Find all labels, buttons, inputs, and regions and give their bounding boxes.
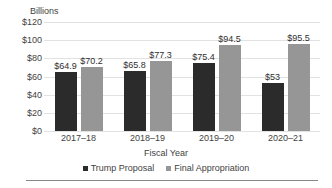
- bar[interactable]: [219, 45, 241, 131]
- y-axis-tick-label: $60: [2, 72, 42, 82]
- y-axis-tick-labels: $120$100$80$60$40$20$0: [0, 22, 42, 131]
- x-axis-tick-labels: 2017–182018–192019–202020–21: [44, 133, 320, 143]
- x-axis-tick-label: 2019–20: [182, 133, 251, 143]
- bar-group: $53$95.5: [251, 22, 320, 131]
- bar[interactable]: [193, 63, 215, 131]
- bar[interactable]: [81, 67, 103, 131]
- y-axis-tick-label: $80: [2, 53, 42, 63]
- bar-slot: $70.2: [81, 22, 103, 131]
- bar-group: $64.9$70.2: [44, 22, 113, 131]
- bar-value-label: $95.5: [287, 33, 310, 43]
- bar[interactable]: [55, 72, 77, 131]
- y-axis-title: Billions: [30, 6, 59, 16]
- bar[interactable]: [124, 71, 146, 131]
- bar[interactable]: [150, 61, 172, 131]
- x-axis-tick-label: 2017–18: [44, 133, 113, 143]
- y-axis-tick-label: $40: [2, 90, 42, 100]
- bar-group: $75.4$94.5: [182, 22, 251, 131]
- legend-item[interactable]: Trump Proposal: [83, 163, 155, 173]
- x-axis-tick-label: 2018–19: [113, 133, 182, 143]
- bar[interactable]: [262, 83, 284, 131]
- bar-slot: $53: [262, 22, 284, 131]
- chart-legend: Trump ProposalFinal Appropriation: [0, 163, 332, 173]
- bar-value-label: $75.4: [192, 52, 215, 62]
- bar-value-label: $77.3: [149, 50, 172, 60]
- bar-group-bars: $53$95.5: [251, 22, 320, 131]
- bar-slot: $95.5: [288, 22, 310, 131]
- legend-swatch-icon: [83, 166, 88, 171]
- x-axis-title: Fiscal Year: [0, 148, 332, 158]
- plot-area: $64.9$70.2$65.8$77.3$75.4$94.5$53$95.5: [44, 22, 320, 131]
- bar-slot: $94.5: [219, 22, 241, 131]
- legend-label: Final Appropriation: [174, 163, 249, 173]
- y-axis-tick-label: $20: [2, 108, 42, 118]
- bar-value-label: $64.9: [54, 61, 77, 71]
- bar-value-label: $65.8: [123, 60, 146, 70]
- bar-groups: $64.9$70.2$65.8$77.3$75.4$94.5$53$95.5: [44, 22, 320, 131]
- bar-slot: $65.8: [124, 22, 146, 131]
- y-axis-tick-label: $0: [2, 126, 42, 136]
- bar-group-bars: $75.4$94.5: [182, 22, 251, 131]
- bar-slot: $75.4: [193, 22, 215, 131]
- legend-swatch-icon: [166, 166, 171, 171]
- y-axis-tick-label: $120: [2, 17, 42, 27]
- bar-value-label: $53: [265, 72, 280, 82]
- legend-label: Trump Proposal: [91, 163, 155, 173]
- bar-slot: $77.3: [150, 22, 172, 131]
- x-axis-tick-label: 2020–21: [251, 133, 320, 143]
- bar-group-bars: $64.9$70.2: [44, 22, 113, 131]
- legend-item[interactable]: Final Appropriation: [166, 163, 249, 173]
- gridline: [44, 131, 320, 132]
- bar-value-label: $70.2: [80, 56, 103, 66]
- bar-group-bars: $65.8$77.3: [113, 22, 182, 131]
- y-axis-tick-label: $100: [2, 35, 42, 45]
- bar-group: $65.8$77.3: [113, 22, 182, 131]
- bar-chart-figure: Billions $120$100$80$60$40$20$0 $64.9$70…: [0, 0, 332, 188]
- bottom-divider: [26, 180, 318, 181]
- bar-slot: $64.9: [55, 22, 77, 131]
- bar[interactable]: [288, 44, 310, 131]
- bar-value-label: $94.5: [218, 34, 241, 44]
